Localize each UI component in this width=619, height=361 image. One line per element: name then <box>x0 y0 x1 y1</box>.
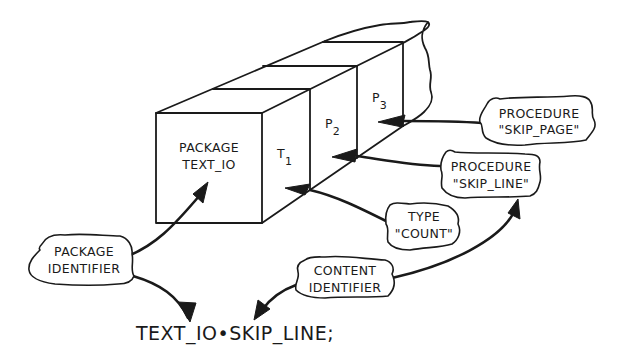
arrow-package-identifier-to-statement <box>133 276 196 322</box>
callout-skip-page-line1: PROCEDURE <box>499 106 580 121</box>
callout-content-identifier: CONTENT IDENTIFIER <box>296 256 394 298</box>
arrow-type-count <box>285 184 388 222</box>
callout-content-identifier-line1: CONTENT <box>314 263 377 278</box>
arrow-skip-page <box>378 115 482 127</box>
callout-package-identifier-line2: IDENTIFIER <box>48 261 120 276</box>
bottom-right-edge <box>262 126 403 223</box>
diagram-canvas: PACKAGE TEXT_IO T1 P2 P3 PROCEDURE <box>0 0 619 361</box>
arrow-package-identifier-to-box <box>128 182 208 256</box>
callout-skip-line-line1: PROCEDURE <box>451 159 532 174</box>
callout-type-count-line1: TYPE <box>407 209 440 224</box>
segment-t1: T1 <box>276 146 292 168</box>
package-box-line1: PACKAGE <box>179 140 239 155</box>
callout-package-identifier-line1: PACKAGE <box>54 244 114 259</box>
callout-skip-page-line2: "SKIP_PAGE" <box>498 122 579 137</box>
arrow-content-identifier-to-statement <box>254 285 296 320</box>
callout-package-identifier: PACKAGE IDENTIFIER <box>29 234 134 285</box>
segment-p3: P3 <box>372 90 387 112</box>
callout-skip-page: PROCEDURE "SKIP_PAGE" <box>480 96 595 146</box>
top-back-edge <box>156 41 325 113</box>
callout-skip-line-line2: "SKIP_LINE" <box>453 176 529 191</box>
callout-content-identifier-line2: IDENTIFIER <box>309 280 381 295</box>
package-box-line2: TEXT_IO <box>181 157 235 172</box>
statement-text: TEXT_IO•SKIP_LINE; <box>135 322 334 345</box>
segment-p2: P2 <box>325 116 340 138</box>
callout-skip-line: PROCEDURE "SKIP_LINE" <box>441 150 541 198</box>
callout-type-count-line2: "COUNT" <box>395 226 453 241</box>
callout-type-count: TYPE "COUNT" <box>386 203 460 250</box>
